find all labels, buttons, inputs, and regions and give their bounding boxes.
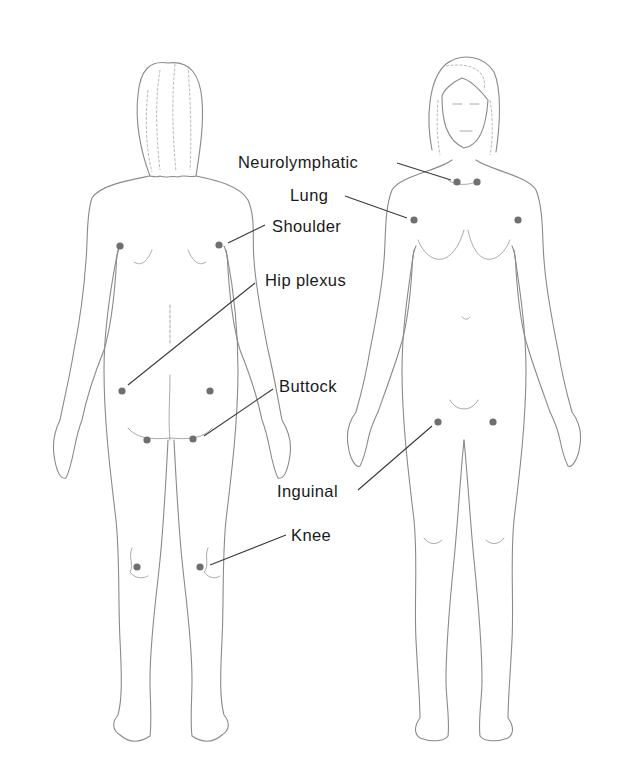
back-leg-left-outline [104,250,168,741]
back-scapula-left [134,250,152,264]
point-knee-left [133,563,140,570]
back-knee-right [204,548,220,578]
back-scapula-right [188,250,206,264]
front-face [442,78,488,148]
leader-lung [345,196,407,218]
massage-points [116,178,521,570]
point-hip-plexus-left [118,387,125,394]
front-pelvis [450,400,478,409]
label-hip-plexus: Hip plexus [265,271,346,289]
back-cleft [169,375,170,440]
front-knee-left [424,538,442,544]
point-knee-right [196,563,203,570]
back-body-left-outline [53,176,150,478]
point-neurolymphatic-right [473,178,480,185]
leader-shoulder [228,225,265,243]
point-lung-left [410,216,417,223]
leader-buttock [204,389,273,436]
front-breast-left [418,230,464,259]
back-leg-right-outline [174,250,238,741]
point-buttock-left [143,436,150,443]
front-breast-right [468,230,510,259]
back-hair-strand [157,70,160,170]
label-shoulder: Shoulder [272,217,341,235]
point-inguinal-right [489,418,496,425]
back-knee-left [130,548,148,578]
point-buttock-right [189,435,196,442]
label-inguinal: Inguinal [277,482,338,500]
front-figure [347,57,580,741]
front-navel [462,317,470,319]
point-hip-plexus-right [206,387,213,394]
point-lung-right [514,216,521,223]
front-leg-right-outline [464,250,526,741]
back-hair-strand [188,66,191,170]
leader-knee [210,535,286,565]
front-leg-left-outline [402,250,464,741]
front-head-hair [429,57,500,152]
body-diagram: Neurolymphatic Lung Shoulder Hip plexus … [0,0,629,782]
front-hair-strand [437,100,440,155]
point-inguinal-left [434,418,441,425]
point-shoulder-left [116,242,123,249]
back-hair-strand [173,64,176,172]
back-hair-strand [146,90,152,172]
back-head-hair [137,62,202,177]
point-shoulder-right [215,241,222,248]
front-hair-strand [490,100,492,155]
label-buttock: Buttock [279,377,337,395]
labels: Neurolymphatic Lung Shoulder Hip plexus … [238,153,358,544]
point-neurolymphatic-left [453,178,460,185]
front-hair-strand [446,65,485,90]
front-knee-right [486,538,504,544]
label-lung: Lung [290,186,328,204]
label-knee: Knee [291,526,331,544]
label-neurolymphatic: Neurolymphatic [238,153,358,171]
